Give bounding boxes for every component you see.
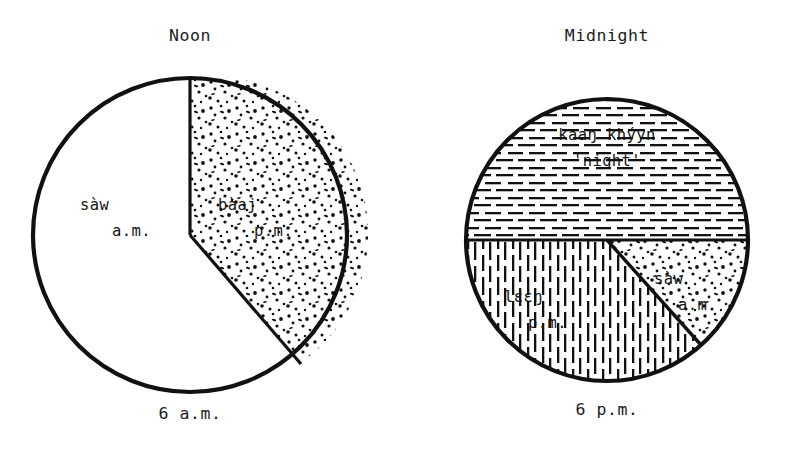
right-slice-night-gloss: 'night' [512,148,702,174]
left-slice-label-saw-am: sàw a.m. [60,192,180,244]
figure-container: Noon Midnight sàw a.m. bàaj p.m. kaaŋ kh… [0,0,812,456]
left-slice-baaj-gloss: p.m. [206,218,336,244]
left-diagram-title: Noon [0,26,380,45]
right-diagram-title: Midnight [432,26,782,45]
left-slice-saw-term: sàw [60,192,180,218]
left-slice-saw-gloss: a.m. [60,218,180,244]
right-slice-night-term: kaaŋ khýyn [512,122,702,148]
right-slice-leeng-gloss: p.m. [490,310,610,336]
left-slice-label-baaj-pm: bàaj p.m. [206,192,336,244]
right-slice-label-saw-am: sàw a.m [646,266,756,318]
right-slice-label-night: kaaŋ khýyn 'night' [512,122,702,174]
right-slice-saw-gloss: a.m [646,292,756,318]
left-diagram-caption: 6 a.m. [0,404,380,423]
right-slice-leeng-term: lɛɛŋ [490,284,610,310]
left-slice-baaj-term: bàaj [206,192,336,218]
right-slice-saw-term: sàw [646,266,756,292]
right-slice-label-leeng-pm: lɛɛŋ p.m. [490,284,610,336]
right-diagram-caption: 6 p.m. [432,400,782,419]
